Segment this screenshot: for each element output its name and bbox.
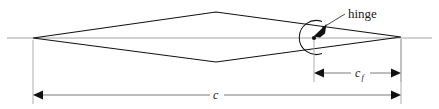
chord-label: c — [213, 88, 219, 102]
airfoil-hinge-figure: hinge c f c — [0, 0, 439, 109]
flap-chord-label: c — [355, 66, 361, 80]
figure-canvas: hinge c f c — [0, 0, 439, 109]
hinge-label: hinge — [348, 6, 377, 21]
